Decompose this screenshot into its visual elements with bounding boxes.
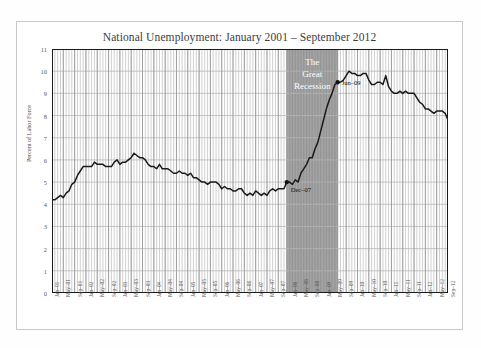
- x-tick-label: May–04: [167, 279, 173, 297]
- chart-title: National Unemployment: January 2001 – Se…: [17, 31, 462, 43]
- y-tick-label: 5: [31, 179, 47, 186]
- x-tick-label: Jan–11: [393, 282, 399, 297]
- y-tick-label: 0: [31, 290, 47, 297]
- x-tick-label: Jan–01: [54, 282, 60, 297]
- y-tick-label: 10: [31, 68, 47, 75]
- svg-text:Great: Great: [302, 69, 322, 79]
- x-tick-label: May–08: [303, 279, 309, 297]
- x-tick-label: May–11: [405, 279, 411, 297]
- x-tick-label: Sep–04: [178, 281, 184, 297]
- x-tick-label: May–06: [235, 279, 241, 297]
- x-tick-label: Sep–05: [212, 281, 218, 297]
- x-tick-label: Jan–10: [359, 282, 365, 297]
- y-tick-label: 8: [31, 112, 47, 119]
- x-tick-label: Jan–12: [427, 282, 433, 297]
- x-tick-label: May–12: [439, 279, 445, 297]
- x-tick-label: Sep–01: [77, 281, 83, 297]
- svg-text:Dec–07: Dec–07: [291, 186, 312, 193]
- x-tick-label: Sep–09: [348, 281, 354, 297]
- y-tick-label: 11: [31, 46, 47, 53]
- y-tick-label: 6: [31, 156, 47, 163]
- y-tick-label: 1: [31, 267, 47, 274]
- x-tick-label: Sep–11: [416, 281, 422, 297]
- x-tick-label: Sep–08: [314, 281, 320, 297]
- x-tick-label: Sep–07: [280, 281, 286, 297]
- unemployment-line-chart: TheGreatRecessionDec–07Jun–09: [52, 49, 448, 293]
- x-tick-label: Jan–07: [258, 282, 264, 297]
- x-tick-label: Sep–12: [450, 281, 456, 297]
- plot-area: TheGreatRecessionDec–07Jun–09: [52, 49, 448, 293]
- x-tick-label: May–03: [133, 279, 139, 297]
- x-tick-label: Jan–08: [292, 282, 298, 297]
- x-tick-label: Jan–09: [326, 282, 332, 297]
- x-tick-label: May–07: [269, 279, 275, 297]
- x-tick-label: May–01: [65, 279, 71, 297]
- x-tick-label: Jan–02: [88, 282, 94, 297]
- x-tick-label: Sep–06: [246, 281, 252, 297]
- x-tick-label: May–09: [337, 279, 343, 297]
- x-tick-label: May–10: [371, 279, 377, 297]
- x-tick-label: Jan–05: [190, 282, 196, 297]
- chart-page: National Unemployment: January 2001 – Se…: [0, 0, 481, 348]
- x-tick-label: Jan–03: [122, 282, 128, 297]
- x-tick-label: Sep–10: [382, 281, 388, 297]
- x-tick-label: May–02: [99, 279, 105, 297]
- chart-frame: National Unemployment: January 2001 – Se…: [16, 21, 463, 330]
- svg-text:The: The: [305, 57, 319, 67]
- y-tick-label: 2: [31, 245, 47, 252]
- x-tick-label: May–05: [201, 279, 207, 297]
- y-tick-label: 3: [31, 223, 47, 230]
- x-tick-label: Sep–03: [145, 281, 151, 297]
- svg-text:Jun–09: Jun–09: [342, 79, 361, 86]
- svg-text:Recession: Recession: [294, 81, 331, 91]
- y-tick-label: 9: [31, 90, 47, 97]
- x-tick-label: Jan–04: [156, 282, 162, 297]
- x-tick-label: Sep–02: [111, 281, 117, 297]
- y-tick-label: 4: [31, 201, 47, 208]
- y-tick-label: 7: [31, 134, 47, 141]
- x-tick-label: Jan–06: [224, 282, 230, 297]
